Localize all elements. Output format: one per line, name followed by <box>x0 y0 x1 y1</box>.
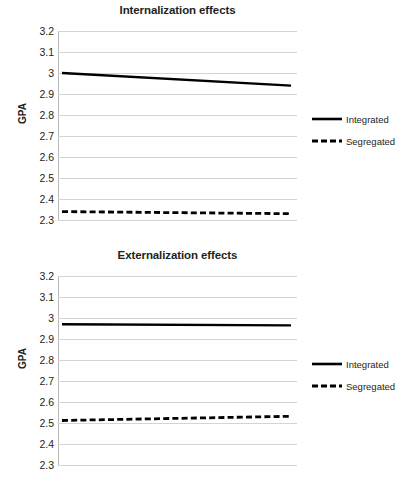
y-tick-label: 2.5 <box>10 417 54 429</box>
legend-item-segregated: Segregated <box>312 375 407 397</box>
legend-internalization: Integrated Segregated <box>312 108 407 152</box>
legend-item-segregated: Segregated <box>312 130 407 152</box>
legend-label-segregated: Segregated <box>346 136 395 147</box>
y-tick-label: 2.3 <box>10 214 54 226</box>
y-tick-label: 3.1 <box>10 46 54 58</box>
y-tick-label: 3.1 <box>10 291 54 303</box>
series-line-integrated <box>62 324 291 325</box>
y-tick-label: 2.7 <box>10 375 54 387</box>
plot-area-internalization <box>58 31 297 220</box>
y-tick-label: 2.6 <box>10 396 54 408</box>
y-axis-ticks-internalization: 3.23.132.92.82.72.62.52.42.3 <box>8 31 54 220</box>
y-axis-ticks-externalization: 3.23.132.92.82.72.62.52.42.3 <box>8 276 54 465</box>
y-tick-label: 3.2 <box>10 25 54 37</box>
legend-item-integrated: Integrated <box>312 108 407 130</box>
solid-line-icon <box>312 114 342 124</box>
gridline <box>58 465 297 466</box>
legend-item-integrated: Integrated <box>312 353 407 375</box>
legend-label-segregated: Segregated <box>346 381 395 392</box>
legend-externalization: Integrated Segregated <box>312 353 407 397</box>
y-tick-label: 2.6 <box>10 151 54 163</box>
series-lines <box>58 276 297 465</box>
chart-title-internalization: Internalization effects <box>58 4 297 16</box>
two-panel-line-chart-figure: Internalization effects GPA 3.23.132.92.… <box>0 0 409 490</box>
gridline <box>58 220 297 221</box>
y-tick-label: 2.4 <box>10 193 54 205</box>
legend-label-integrated: Integrated <box>346 114 389 125</box>
y-tick-label: 3 <box>10 67 54 79</box>
y-tick-label: 2.4 <box>10 438 54 450</box>
series-line-segregated <box>62 212 291 214</box>
y-tick-label: 2.9 <box>10 88 54 100</box>
y-tick-label: 2.9 <box>10 333 54 345</box>
dashed-line-icon <box>312 381 342 391</box>
chart-title-externalization: Externalization effects <box>58 249 297 261</box>
legend-label-integrated: Integrated <box>346 359 389 370</box>
series-line-segregated <box>62 416 291 420</box>
solid-line-icon <box>312 359 342 369</box>
y-tick-label: 2.3 <box>10 459 54 471</box>
plot-area-externalization <box>58 276 297 465</box>
chart-panel-externalization: Externalization effects GPA 3.23.132.92.… <box>0 245 409 490</box>
y-tick-label: 3 <box>10 312 54 324</box>
series-lines <box>58 31 297 220</box>
y-tick-label: 2.8 <box>10 354 54 366</box>
y-tick-label: 2.7 <box>10 130 54 142</box>
y-tick-label: 2.8 <box>10 109 54 121</box>
series-line-integrated <box>62 73 291 86</box>
y-tick-label: 3.2 <box>10 270 54 282</box>
dashed-line-icon <box>312 136 342 146</box>
y-tick-label: 2.5 <box>10 172 54 184</box>
